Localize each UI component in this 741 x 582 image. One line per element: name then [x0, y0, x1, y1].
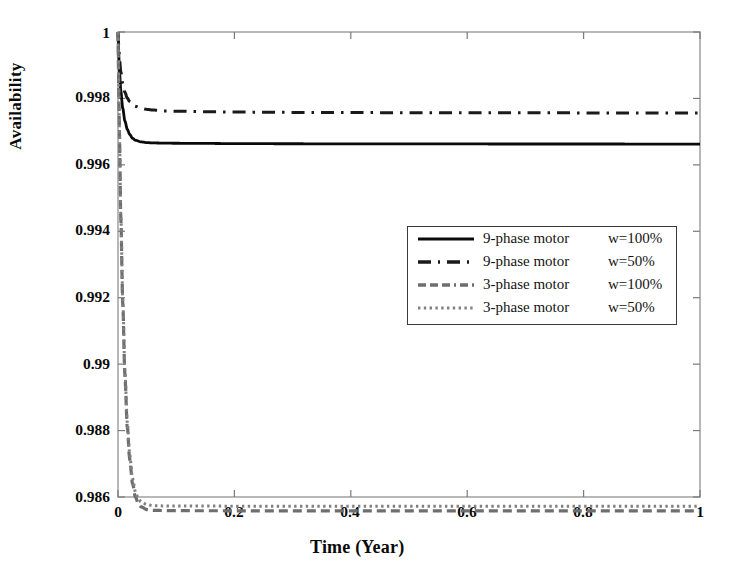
legend-label: 3-phase motorw=50% — [483, 299, 655, 316]
legend-series-w: w=100% — [608, 276, 662, 293]
chart-figure: Availability 1 0.998 0.996 0.994 0.992 0… — [0, 0, 741, 582]
legend-series-name: 3-phase motor — [483, 299, 608, 316]
legend-series-name: 9-phase motor — [483, 230, 608, 247]
legend-line-sample-solid — [416, 232, 476, 246]
legend-series-name: 3-phase motor — [483, 276, 608, 293]
legend-series-w: w=100% — [608, 230, 662, 247]
legend-line-sample-dashed — [416, 278, 476, 292]
legend-series-name: 9-phase motor — [483, 253, 608, 270]
series-line-1 — [118, 32, 700, 113]
legend-series-w: w=50% — [608, 299, 655, 316]
legend-label: 9-phase motorw=100% — [483, 230, 662, 247]
legend-item: 3-phase motorw=50% — [408, 296, 676, 319]
legend-label: 9-phase motorw=50% — [483, 253, 655, 270]
legend-label: 3-phase motorw=100% — [483, 276, 662, 293]
legend-item: 9-phase motorw=100% — [408, 227, 676, 250]
series-line-0 — [118, 32, 700, 144]
legend-item: 9-phase motorw=50% — [408, 250, 676, 273]
legend-series-w: w=50% — [608, 253, 655, 270]
legend-line-sample-dashdot — [416, 255, 476, 269]
legend-item: 3-phase motorw=100% — [408, 273, 676, 296]
legend-box: 9-phase motorw=100% 9-phase motorw=50% 3… — [407, 226, 677, 325]
legend-line-sample-dotted — [416, 301, 476, 315]
